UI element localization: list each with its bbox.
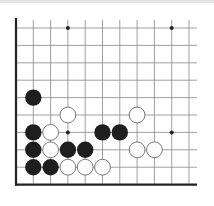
star-point bbox=[170, 26, 174, 30]
white-stone bbox=[77, 159, 93, 175]
white-stone bbox=[129, 142, 145, 158]
star-point bbox=[170, 130, 174, 134]
black-stone bbox=[112, 124, 128, 140]
white-stone bbox=[129, 107, 145, 123]
star-point bbox=[66, 130, 70, 134]
white-stone bbox=[147, 142, 163, 158]
black-stone bbox=[77, 142, 93, 158]
black-stone bbox=[25, 124, 41, 140]
black-stone bbox=[42, 159, 58, 175]
black-stone bbox=[25, 159, 41, 175]
black-stone bbox=[60, 142, 76, 158]
white-stone bbox=[60, 159, 76, 175]
black-stone bbox=[25, 89, 41, 105]
white-stone bbox=[43, 142, 59, 158]
white-stone bbox=[60, 107, 76, 123]
star-point bbox=[66, 26, 70, 30]
go-board bbox=[0, 0, 214, 206]
black-stone bbox=[25, 142, 41, 158]
white-stone bbox=[95, 159, 111, 175]
black-stone bbox=[94, 124, 110, 140]
white-stone bbox=[43, 124, 59, 140]
